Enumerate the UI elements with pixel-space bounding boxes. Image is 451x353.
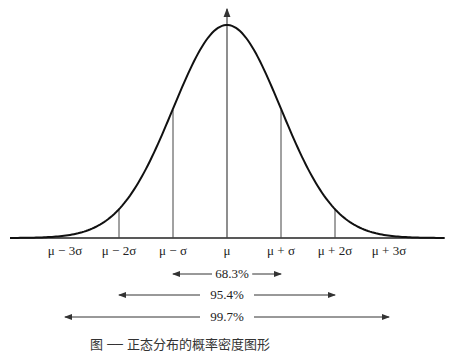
interval-2sigma-label: 95.4% [207, 287, 247, 303]
tick-mu-minus-3sigma: μ − 3σ [48, 243, 82, 259]
tick-mu-minus-2sigma: μ − 2σ [102, 243, 136, 259]
figure-caption: 图 ── 正态分布的概率密度图形 [90, 334, 270, 353]
tick-mu-minus-sigma: μ − σ [159, 243, 187, 259]
interval-1sigma-label: 68.3% [212, 266, 252, 282]
interval-3sigma-label: 99.7% [207, 309, 247, 325]
tick-mu-plus-3sigma: μ + 3σ [372, 243, 406, 259]
tick-mu-plus-sigma: μ + σ [267, 243, 295, 259]
tick-mu: μ [224, 243, 231, 259]
tick-mu-plus-2sigma: μ + 2σ [318, 243, 352, 259]
